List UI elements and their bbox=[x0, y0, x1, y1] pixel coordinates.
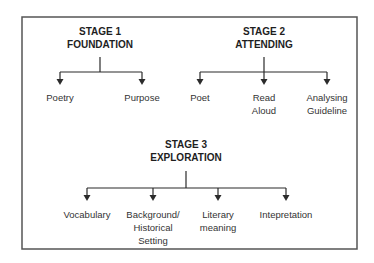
stage-1-arrow-down-icon-1 bbox=[57, 79, 64, 85]
stage-2-title: STAGE 2 ATTENDING bbox=[204, 26, 324, 51]
stage-3-arrow-down-icon-1 bbox=[84, 195, 91, 201]
stage-3-title: STAGE 3 EXPLORATION bbox=[126, 139, 246, 164]
stage-3-child-intepretation: Intepretation bbox=[246, 208, 326, 221]
stage-1-title-line2: FOUNDATION bbox=[40, 39, 160, 52]
stage-2-title-line2: ATTENDING bbox=[204, 39, 324, 52]
stage-1-child-poetry: Poetry bbox=[20, 91, 100, 104]
stage-2-arrow-down-icon-3 bbox=[324, 79, 331, 85]
stage-1-title: STAGE 1 FOUNDATION bbox=[40, 26, 160, 51]
stage-3-arrow-down-icon-3 bbox=[215, 195, 222, 201]
connectors bbox=[57, 57, 331, 201]
stage-2-child-analysing-guideline: Analysing Guideline bbox=[287, 91, 367, 117]
stage-2-arrow-down-icon-2 bbox=[261, 79, 268, 85]
stage-1-arrow-down-icon-2 bbox=[139, 79, 146, 85]
stage-2-arrow-down-icon-1 bbox=[197, 79, 204, 85]
stage-1-title-line1: STAGE 1 bbox=[40, 26, 160, 39]
stage-2-title-line1: STAGE 2 bbox=[204, 26, 324, 39]
stage-3-title-line2: EXPLORATION bbox=[126, 152, 246, 165]
stage-3-arrow-down-icon-2 bbox=[150, 195, 157, 201]
stage-3-arrow-down-icon-4 bbox=[283, 195, 290, 201]
stage-3-title-line1: STAGE 3 bbox=[126, 139, 246, 152]
